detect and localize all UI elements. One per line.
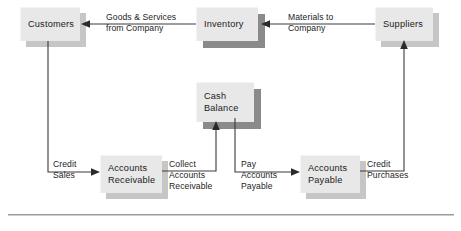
edge-label-credit-sales: Credit Sales [53, 159, 76, 181]
arrowhead-left-inventory-icon [261, 20, 270, 28]
edge-label-line-1: Goods & Services [106, 12, 176, 23]
connector-lines-layer [0, 0, 461, 231]
edge-label-line-1: Materials to [288, 12, 333, 23]
edge-label-pay-accounts-payable: Pay Accounts Payable [241, 159, 277, 192]
edge-customers-to-accounts-receivable [48, 41, 93, 172]
edge-label-line-1: Pay [241, 159, 277, 170]
cash-flow-diagram: Customers Inventory Suppliers Cash Balan… [0, 0, 461, 231]
edge-accounts-payable-to-suppliers [360, 48, 404, 171]
arrowhead-right-accounts-receivable-icon [91, 168, 100, 176]
edge-label-line-1: Collect [169, 159, 212, 170]
edge-label-line-1: Credit [53, 159, 76, 170]
arrowhead-right-accounts-payable-icon [291, 168, 300, 176]
arrowhead-up-suppliers-icon [400, 40, 408, 49]
edge-label-line-2: Purchases [367, 170, 408, 181]
arrowhead-left-customers-icon [81, 20, 90, 28]
edge-label-line-1: Credit [367, 159, 408, 170]
edge-label-line-2: Accounts [241, 170, 277, 181]
edge-label-line-3: Payable [241, 181, 277, 192]
edge-label-credit-purchases: Credit Purchases [367, 159, 408, 181]
edge-label-materials-to-company: Materials to Company [288, 12, 333, 34]
edge-label-line-2: Company [288, 23, 333, 34]
edge-label-line-2: from Company [106, 23, 176, 34]
edge-label-collect-accounts-receivable: Collect Accounts Receivable [169, 159, 212, 192]
edge-label-line-2: Sales [53, 170, 76, 181]
arrowhead-up-cash-balance-icon [212, 121, 220, 130]
edge-label-goods-and-services-from-company: Goods & Services from Company [106, 12, 176, 34]
edge-label-line-3: Receivable [169, 181, 212, 192]
edge-label-line-2: Accounts [169, 170, 212, 181]
